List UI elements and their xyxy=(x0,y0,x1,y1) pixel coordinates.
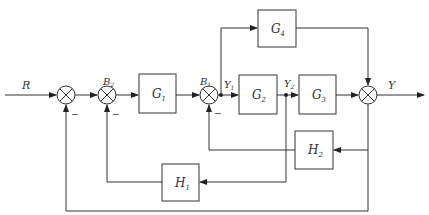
summing-junction-output xyxy=(359,86,377,104)
minus-sign-b2: − xyxy=(112,109,120,119)
junction-label-b2: B2 xyxy=(102,76,114,88)
output-label-y: Y xyxy=(388,79,397,92)
summing-junction-1 xyxy=(57,86,75,104)
signal-label-y1: Y1 xyxy=(224,79,234,91)
block-diagram: G1 G2 G3 G4 H1 H2 R Y B2 B1 Y1 Y2 − − − xyxy=(0,0,429,215)
input-label-r: R xyxy=(21,79,30,92)
summing-junction-b1 xyxy=(200,86,218,104)
minus-sign-b1: − xyxy=(214,108,222,118)
signal-label-y2: Y2 xyxy=(284,78,295,90)
junction-label-b1: B1 xyxy=(199,76,211,88)
summing-junction-b2 xyxy=(98,86,116,104)
minus-sign-j1: − xyxy=(71,109,79,119)
branch-point-y2 xyxy=(284,93,288,97)
branch-point-y1 xyxy=(219,93,223,97)
